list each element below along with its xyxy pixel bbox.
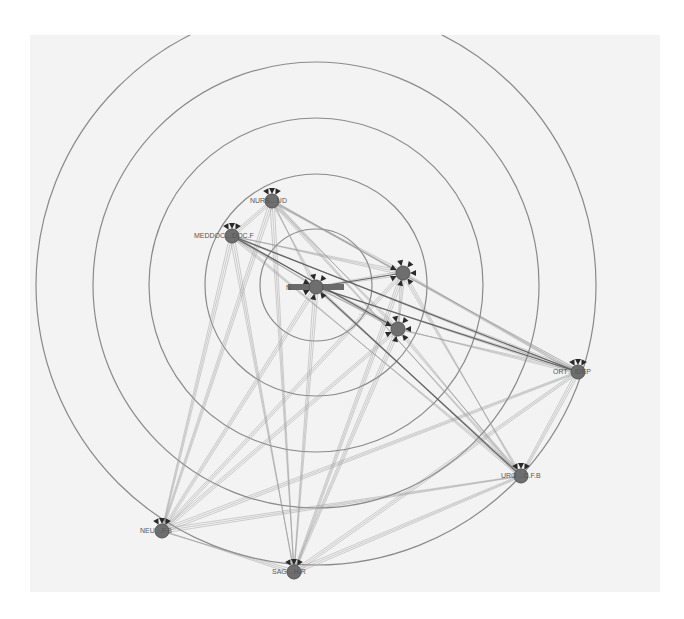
arrowhead-icon xyxy=(392,316,398,323)
arrowhead-icon xyxy=(229,223,235,229)
network-diagram: N…NURS…UDMEDDOC…DOC.F…ORT…IDEPURO…C.F.BN… xyxy=(0,0,684,619)
edge xyxy=(294,273,403,572)
arrowhead-icon xyxy=(385,332,392,337)
nodes: N…NURS…UDMEDDOC…DOC.F…ORT…IDEPURO…C.F.BN… xyxy=(140,188,591,579)
node-label: URO…C.F.B xyxy=(501,472,541,479)
edge xyxy=(294,287,316,572)
node-label: SAG…H.R xyxy=(272,568,306,575)
arrowhead-icon xyxy=(153,518,159,525)
edge xyxy=(521,372,580,478)
node-label: NURS…UD xyxy=(250,197,287,204)
edge xyxy=(521,372,576,474)
arrowhead-icon xyxy=(397,260,403,267)
edge xyxy=(403,273,578,372)
edge-strong xyxy=(316,287,521,476)
node-ort[interactable]: ORT…IDEP xyxy=(553,359,591,379)
edge xyxy=(521,372,578,476)
edge xyxy=(294,287,318,574)
node-circle[interactable] xyxy=(309,280,323,294)
edge xyxy=(294,476,523,574)
arrowhead-icon xyxy=(223,223,229,230)
node-neu[interactable]: NEU…F.B xyxy=(140,518,172,538)
arrowhead-icon xyxy=(569,359,575,366)
node-label: MEDDOC…DOC.F xyxy=(194,232,254,239)
node-circle[interactable] xyxy=(391,322,405,336)
node-circle[interactable] xyxy=(396,266,410,280)
arrowhead-icon xyxy=(303,290,310,295)
arrowhead-icon xyxy=(263,188,269,195)
edge xyxy=(400,329,521,478)
edge xyxy=(403,273,521,476)
edge xyxy=(234,236,521,478)
arrowhead-icon xyxy=(575,359,581,365)
edges xyxy=(160,199,580,574)
edge xyxy=(162,201,270,529)
edge xyxy=(294,287,314,570)
arrowhead-icon xyxy=(402,317,408,324)
edge xyxy=(162,372,578,531)
edge xyxy=(162,372,576,529)
node-label: ORT…IDEP xyxy=(553,368,591,375)
edge xyxy=(234,236,403,275)
arrowhead-icon xyxy=(320,275,326,282)
edge xyxy=(401,273,578,370)
arrowhead-icon xyxy=(410,270,416,276)
node-label: NEU…F.B xyxy=(140,527,172,534)
edge xyxy=(405,273,521,478)
edge xyxy=(162,236,230,529)
edge xyxy=(401,273,521,474)
node-label: N… xyxy=(286,284,298,291)
edge xyxy=(162,287,318,533)
edge xyxy=(162,287,314,529)
arrowhead-icon xyxy=(275,188,281,195)
arrowhead-icon xyxy=(407,261,413,268)
edge xyxy=(162,236,234,533)
node-label: … xyxy=(358,309,365,316)
arrowhead-icon xyxy=(269,188,275,194)
arrowhead-icon xyxy=(285,559,291,566)
arrowhead-icon xyxy=(518,463,524,469)
